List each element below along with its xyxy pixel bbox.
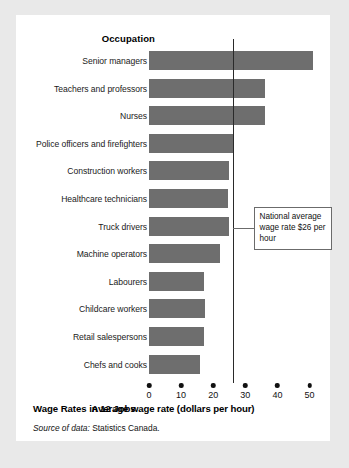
caption-source-value: Statistics Canada. (90, 423, 160, 433)
caption-title: Wage Rates in 12 Jobs (33, 403, 323, 414)
x-tick-mark (147, 383, 152, 388)
bar (149, 79, 265, 98)
national-average-callout: National average wage rate $26 per hour (254, 207, 332, 250)
bar-category-label: Truck drivers (16, 222, 147, 232)
bar (149, 217, 229, 236)
bar-row: Police officers and firefighters (16, 131, 330, 157)
x-tick-label: 30 (240, 390, 250, 400)
bar (149, 134, 233, 153)
x-tick-label: 10 (176, 390, 186, 400)
x-tick-label: 20 (208, 390, 218, 400)
x-tick-mark (243, 383, 248, 388)
bar (149, 299, 205, 318)
national-average-reference-line (233, 39, 234, 383)
caption-source: Source of data: Statistics Canada. (33, 423, 323, 433)
bar-row: Construction workers (16, 158, 330, 184)
bar-row: Childcare workers (16, 296, 330, 322)
x-tick-mark (211, 383, 216, 388)
bar-category-label: Childcare workers (16, 304, 147, 314)
x-tick-mark (275, 383, 280, 388)
caption-source-lead: Source of data: (33, 423, 90, 433)
bar-category-label: Retail salespersons (16, 332, 147, 342)
bar-category-label: Teachers and professors (16, 84, 147, 94)
bar-category-label: Senior managers (16, 56, 147, 66)
bar-category-label: Chefs and cooks (16, 360, 147, 370)
x-tick-label: 40 (272, 390, 282, 400)
bar-category-label: Healthcare technicians (16, 194, 147, 204)
bar-category-label: Construction workers (16, 166, 147, 176)
bar-category-label: Labourers (16, 277, 147, 287)
bar (149, 106, 265, 125)
bar (149, 327, 204, 346)
bar-category-label: Machine operators (16, 249, 147, 259)
bar-row: Chefs and cooks (16, 352, 330, 378)
callout-text: National average wage rate $26 per hour (260, 212, 326, 243)
figure-caption: Wage Rates in 12 Jobs Source of data: St… (33, 403, 323, 433)
bar (149, 244, 220, 263)
bar-row: Labourers (16, 269, 330, 295)
bar (149, 272, 204, 291)
bar (149, 161, 229, 180)
bar-row: Teachers and professors (16, 76, 330, 102)
bar-category-label: Nurses (16, 111, 147, 121)
y-axis-title: Occupation (16, 33, 155, 44)
x-tick-label: 50 (305, 390, 315, 400)
bar-category-label: Police officers and firefighters (16, 139, 147, 149)
bar-row: Nurses (16, 103, 330, 129)
x-tick-mark (307, 383, 312, 388)
callout-leader-line (233, 228, 254, 229)
bar-row: Retail salespersons (16, 324, 330, 350)
x-tick-label: 0 (146, 390, 151, 400)
bar-row: Senior managers (16, 48, 330, 74)
figure-card: Occupation Senior managersTeachers and p… (16, 15, 330, 441)
bar (149, 51, 313, 70)
bar (149, 355, 200, 374)
bar (149, 189, 228, 208)
chart-plot-area: Occupation Senior managersTeachers and p… (16, 15, 330, 375)
x-tick-mark (179, 383, 184, 388)
